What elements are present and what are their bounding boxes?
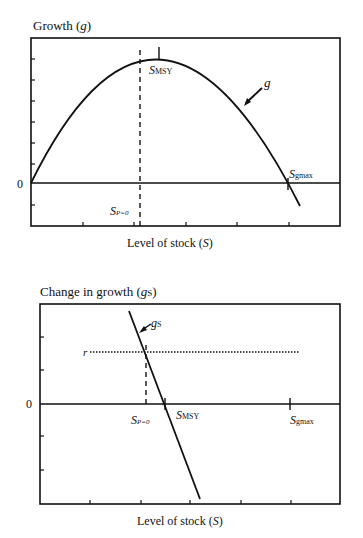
sp0-label-bottom: SP=0 <box>131 413 150 427</box>
sgmax-label-bottom: Sgmax <box>290 413 314 427</box>
sp0-label: SP=0 <box>110 204 129 218</box>
gs-label: gS <box>151 316 161 330</box>
smsy-label: SMSY <box>149 63 173 77</box>
r-label: r <box>83 346 88 358</box>
sgmax-label: Sgmax <box>289 167 313 181</box>
top-x-label: Level of stock (S) <box>127 236 213 250</box>
g-label: g <box>264 75 271 90</box>
figure: Growth (g) 0 SMSY Sgmax SP=0 g Level of … <box>0 0 363 538</box>
top-zero-label: 0 <box>17 177 23 191</box>
change-in-growth-chart: Change in growth (gS) 0 r gS SP=0 SMSY S… <box>26 284 340 528</box>
top-title: Growth (g) <box>33 18 91 33</box>
bottom-x-label: Level of stock (S) <box>137 514 223 528</box>
smsy-label-bottom: SMSY <box>176 408 200 422</box>
growth-chart: Growth (g) 0 SMSY Sgmax SP=0 g Level of … <box>17 18 340 250</box>
growth-curve <box>31 60 300 206</box>
bottom-title: Change in growth (gS) <box>40 284 157 299</box>
bottom-zero-label: 0 <box>26 397 32 411</box>
